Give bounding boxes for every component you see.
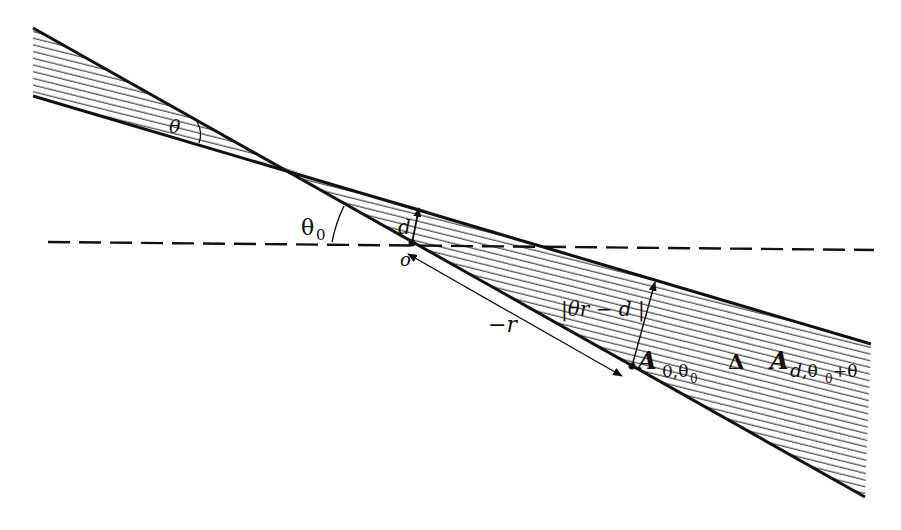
theta0-label: θ 0 [301, 215, 326, 244]
minus-r-label: −r [488, 312, 518, 337]
steep-boundary-line [33, 28, 865, 497]
svg-text:Δ: Δ [728, 349, 744, 374]
svg-text:A: A [768, 346, 789, 375]
svg-text:0: 0 [316, 226, 326, 244]
svg-text:A: A [636, 346, 657, 375]
theta-label: θ [169, 115, 181, 137]
svg-text:d: d [790, 359, 802, 381]
svg-text:0: 0 [825, 372, 833, 386]
wedge-diagram: θ θ 0 d o −r |θr − d | A 0,θ 0 Δ A d ,θ … [0, 0, 901, 530]
svg-text:,θ: ,θ [802, 361, 818, 381]
theta0-angle-arc [332, 206, 344, 242]
svg-text:θ: θ [301, 215, 314, 240]
svg-text:0: 0 [690, 372, 698, 386]
d-label: d [398, 215, 411, 239]
svg-text:+θ: +θ [833, 361, 857, 381]
shallow-boundary-line [33, 96, 871, 344]
theta-r-minus-d-label: |θr − d | [561, 297, 645, 322]
origin-label: o [400, 249, 411, 270]
svg-text:0,θ: 0,θ [662, 361, 688, 381]
